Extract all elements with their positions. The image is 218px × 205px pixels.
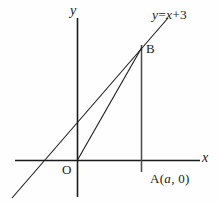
equation-equals: =: [158, 7, 166, 22]
equation-plus: +: [172, 7, 180, 22]
point-b-label: B: [146, 42, 155, 55]
segment-origin-to-b: [78, 48, 142, 160]
x-axis-label: x: [202, 151, 208, 165]
point-a-prefix: A(: [150, 171, 164, 186]
line-y-equals-x-plus-3: [12, 18, 168, 198]
origin-label: O: [62, 163, 71, 176]
coordinate-geometry-figure: y x y=x+3 B O A(a, 0): [0, 0, 218, 205]
line-equation-label: y=x+3: [152, 8, 187, 22]
y-axis-label: y: [70, 4, 76, 18]
point-a-suffix: ): [185, 171, 190, 186]
equation-constant: 3: [180, 7, 187, 22]
point-a-label: A(a, 0): [150, 172, 190, 185]
